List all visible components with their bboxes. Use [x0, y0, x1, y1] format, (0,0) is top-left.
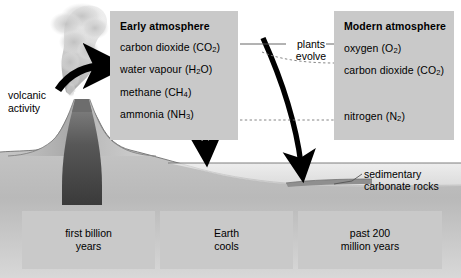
atmosphere-evolution-diagram: Early atmosphere carbon dioxide (CO2) wa…: [0, 0, 461, 278]
timeline-1-line2: years: [65, 240, 112, 253]
timeline-box-first-billion-years: first billion years: [22, 211, 155, 269]
timeline-1-line1: first billion: [65, 227, 112, 240]
timeline-box-earth-cools: Earth cools: [160, 211, 293, 269]
timeline-2-line1: Earth: [214, 227, 239, 240]
plants-evolve-line1: plants: [288, 39, 334, 51]
timeline-2-line2: cools: [214, 240, 239, 253]
early-atmosphere-panel: Early atmosphere carbon dioxide (CO2) wa…: [110, 11, 238, 140]
sedimentary-rocks-line2: carbonate rocks: [364, 180, 439, 192]
early-gas-carbon-dioxide: carbon dioxide (CO2): [120, 41, 238, 54]
early-gas-ammonia: ammonia (NH3): [120, 108, 238, 121]
modern-gas-carbon-dioxide: carbon dioxide (CO2): [344, 64, 454, 77]
sedimentary-rocks-line1: sedimentary: [364, 168, 439, 180]
early-atmosphere-title: Early atmosphere: [120, 20, 238, 32]
modern-gas-nitrogen: nitrogen (N2): [344, 110, 454, 123]
volcanic-activity-line2: activity: [8, 102, 46, 115]
early-gas-water-vapour: water vapour (H2O): [120, 63, 238, 76]
early-gas-methane: methane (CH4): [120, 86, 238, 99]
plants-evolve-line2: evolve: [288, 51, 334, 63]
timeline-3-line1: past 200: [341, 227, 399, 240]
volcanic-activity-line1: volcanic: [8, 89, 46, 102]
timeline-3-line2: million years: [341, 240, 399, 253]
modern-atmosphere-panel: Modern atmosphere oxygen (O2) carbon dio…: [334, 11, 454, 140]
timeline-box-past-200-million-years: past 200 million years: [298, 211, 442, 269]
sedimentary-rocks-label: sedimentary carbonate rocks: [364, 168, 439, 192]
modern-atmosphere-title: Modern atmosphere: [344, 20, 454, 32]
volcanic-activity-label: volcanic activity: [8, 89, 46, 114]
plants-evolve-label: plants evolve: [288, 39, 334, 62]
modern-gas-oxygen: oxygen (O2): [344, 42, 454, 55]
